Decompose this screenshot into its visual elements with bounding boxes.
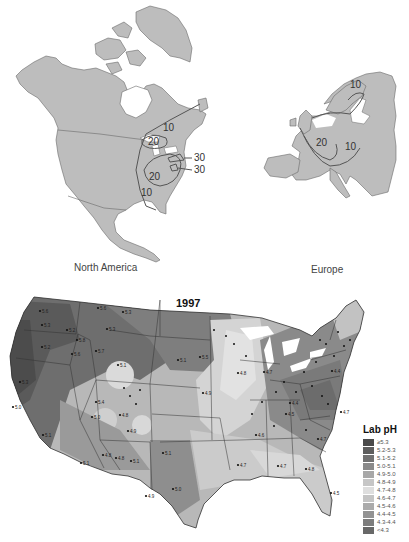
svg-text:4.5: 4.5 [288,412,295,417]
svg-text:4.7: 4.7 [320,437,327,442]
legend-item: 4.8-4.9 [363,478,409,486]
ph-legend: Lab pH ≥5.35.2-5.35.1-5.25.0-5.14.9-5.04… [363,424,409,534]
svg-text:5.3: 5.3 [109,327,116,332]
contour-label: 10 [141,187,153,198]
legend-item: 5.0-5.1 [363,462,409,470]
legend-label: 4.3-4.4 [377,519,396,525]
svg-text:4.7: 4.7 [266,370,273,375]
legend-swatch [363,471,374,478]
site-marker: 4.7 [340,410,350,415]
svg-text:5.6: 5.6 [74,352,81,357]
legend-item: 4.4-4.5 [363,510,409,518]
contour-label: 10 [350,79,362,90]
svg-text:5.8: 5.8 [79,338,86,343]
legend-item: 4.7-4.8 [363,486,409,494]
contour-label: 10 [163,122,175,133]
legend-swatch [363,455,374,462]
svg-text:4.9: 4.9 [205,391,212,396]
north-america-map-panel: 10 20 30 30 20 10 North America [0,0,210,280]
legend-swatch [363,519,374,526]
legend-swatch [363,511,374,518]
svg-text:4.8: 4.8 [122,413,129,418]
svg-text:5.1: 5.1 [120,363,127,368]
svg-text:5.1: 5.1 [83,461,90,466]
north-america-caption: North America [74,262,137,273]
arctic-islands [95,38,126,60]
us-ph-map-panel: 5.6 5.6 5.3 5.3 5.2 5.3 5.2 5.6 5.8 5.7 … [0,285,409,542]
contour-label: 10 [345,141,357,152]
legend-swatch [363,479,374,486]
legend-item: ≥5.3 [363,438,409,446]
contour-label: 20 [316,137,328,148]
svg-text:5.2: 5.2 [44,345,51,350]
svg-text:4.8: 4.8 [240,371,247,376]
legend-label: 5.2-5.3 [377,447,396,453]
contour-label: 20 [148,136,160,147]
svg-text:4.5: 4.5 [333,491,340,496]
svg-text:4.8: 4.8 [105,453,112,458]
svg-text:5.6: 5.6 [100,306,107,311]
svg-text:5.0: 5.0 [15,405,22,410]
legend-label: 5.0-5.1 [377,463,396,469]
legend-label: 4.9-5.0 [377,471,396,477]
legend-swatch [363,527,374,534]
legend-label: <4.3 [377,527,389,533]
legend-swatch [363,503,374,510]
svg-text:5.4: 5.4 [98,400,105,405]
legend-swatch [363,495,374,502]
svg-text:4.9: 4.9 [148,494,155,499]
svg-text:5.3: 5.3 [125,310,132,315]
svg-text:4.4: 4.4 [292,401,299,406]
svg-text:4.6: 4.6 [258,433,265,438]
site-marker: 4.9 [145,494,155,499]
british-isles [298,110,312,134]
svg-text:5.1: 5.1 [45,433,52,438]
legend-item: 4.6-4.7 [363,494,409,502]
legend-item: 5.1-5.2 [363,454,409,462]
svg-text:4.8: 4.8 [118,456,125,461]
site-marker: 5.0 [12,405,22,410]
svg-text:4.8: 4.8 [308,467,315,472]
svg-text:5.6: 5.6 [42,309,49,314]
contour-label: 30 [194,164,206,175]
legend-label: ≥5.3 [377,439,389,445]
legend-label: 4.8-4.9 [377,479,396,485]
svg-text:4.7: 4.7 [240,463,247,468]
legend-label: 4.4-4.5 [377,511,396,517]
site-marker: 4.5 [330,491,340,496]
north-america-map: 10 20 30 30 20 10 [0,0,210,280]
svg-text:5.3: 5.3 [44,323,51,328]
svg-text:5.1: 5.1 [133,459,140,464]
contour-label: 30 [194,152,206,163]
legend-item: 4.9-5.0 [363,470,409,478]
us-ph-map: 5.6 5.6 5.3 5.3 5.2 5.3 5.2 5.6 5.8 5.7 … [0,285,409,542]
legend-item: 5.2-5.3 [363,446,409,454]
map-year-title: 1997 [176,297,200,309]
svg-text:5.3: 5.3 [22,380,29,385]
legend-item: <4.3 [363,526,409,534]
svg-text:4.7: 4.7 [343,410,350,415]
north-america-landmass [16,56,206,262]
legend-label: 5.1-5.2 [377,455,396,461]
svg-text:4.7: 4.7 [280,464,287,469]
europe-map-panel: 10 20 10 Europe [210,0,409,280]
svg-text:4.9: 4.9 [130,429,137,434]
legend-title: Lab pH [363,424,409,435]
legend-label: 4.7-4.8 [377,487,396,493]
legend-swatch [363,447,374,454]
legend-label: 4.5-4.6 [377,503,396,509]
greenland-landmass [136,6,192,62]
svg-text:5.0: 5.0 [94,415,101,420]
svg-text:5.7: 5.7 [98,349,105,354]
legend-item: 4.5-4.6 [363,502,409,510]
svg-text:5.0: 5.0 [175,487,182,492]
legend-item: 4.3-4.4 [363,518,409,526]
legend-swatch [363,463,374,470]
legend-label: 4.6-4.7 [377,495,396,501]
europe-caption: Europe [311,264,343,275]
contour-label: 20 [149,171,161,182]
europe-map: 10 20 10 [210,0,409,280]
svg-text:5.1: 5.1 [180,358,187,363]
svg-text:4.4: 4.4 [334,369,341,374]
svg-text:5.5: 5.5 [202,355,209,360]
